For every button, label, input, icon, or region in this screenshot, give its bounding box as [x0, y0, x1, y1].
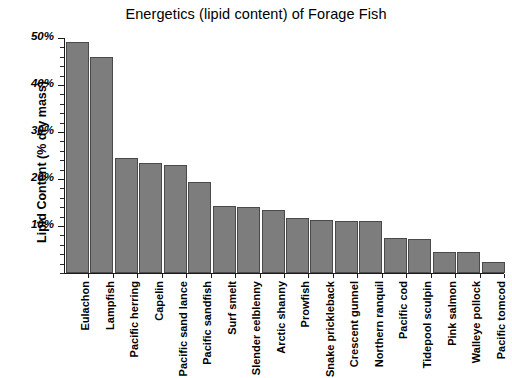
- x-label-slot: Lampfish: [88, 281, 112, 376]
- x-label-slot: Tidepool sculpin: [406, 281, 430, 376]
- x-label-slot: Surf smelt: [211, 281, 235, 376]
- x-tick-mark: [504, 274, 505, 278]
- x-label-slot: Pacific tomcod: [480, 281, 504, 376]
- x-label-slot: Pacific sand lance: [162, 281, 186, 376]
- bar: [164, 165, 187, 273]
- x-label-slot: Pacific sandfish: [186, 281, 210, 376]
- bar: [90, 57, 113, 273]
- chart-title: Energetics (lipid content) of Forage Fis…: [0, 6, 512, 22]
- x-tick-mark: [455, 274, 456, 278]
- x-tick-label: Pacific tomcod: [496, 281, 507, 359]
- x-tick-mark: [308, 274, 309, 278]
- bar: [408, 239, 431, 273]
- x-tick-mark: [284, 274, 285, 278]
- bar: [457, 252, 480, 273]
- x-label-slot: Snake prickleback: [308, 281, 332, 376]
- y-tick-label: 20%: [10, 171, 54, 183]
- x-label-slot: Arctic shanny: [260, 281, 284, 376]
- x-label-slot: Pink salmon: [431, 281, 455, 376]
- y-tick-label: 40%: [10, 77, 54, 89]
- bar: [66, 42, 89, 273]
- bar-series: [64, 38, 504, 273]
- x-label-slot: Walleye pollock: [455, 281, 479, 376]
- bar: [262, 210, 285, 273]
- x-axis-labels: EulachonLampfishPacific herringCapelinPa…: [64, 281, 504, 376]
- bar: [310, 220, 333, 273]
- x-tick-mark: [382, 274, 383, 278]
- bar: [237, 207, 260, 273]
- x-tick-mark: [162, 274, 163, 278]
- y-tick-label: 50%: [10, 30, 54, 42]
- x-tick-mark: [113, 274, 114, 278]
- y-tick-label: 30%: [10, 124, 54, 136]
- x-tick-mark: [260, 274, 261, 278]
- x-tick-mark: [137, 274, 138, 278]
- x-label-slot: Prowfish: [284, 281, 308, 376]
- bar: [359, 221, 382, 273]
- x-tick-mark: [480, 274, 481, 278]
- x-label-slot: Northern ranquil: [357, 281, 381, 376]
- bar: [286, 218, 309, 273]
- x-tick-mark: [333, 274, 334, 278]
- bar: [433, 252, 456, 273]
- bar: [213, 206, 236, 273]
- x-tick-mark: [88, 274, 89, 278]
- x-label-slot: Eulachon: [64, 281, 88, 376]
- bar-chart-figure: Energetics (lipid content) of Forage Fis…: [0, 0, 512, 378]
- x-tick-mark: [431, 274, 432, 278]
- x-label-slot: Capelin: [137, 281, 161, 376]
- x-axis-line: [64, 273, 504, 274]
- x-tick-mark: [235, 274, 236, 278]
- x-tick-mark: [406, 274, 407, 278]
- y-tick-label: 10%: [10, 218, 54, 230]
- bar: [482, 262, 505, 273]
- x-tick-mark: [357, 274, 358, 278]
- x-tick-mark: [211, 274, 212, 278]
- x-label-slot: Crescent gunnel: [333, 281, 357, 376]
- x-tick-mark: [186, 274, 187, 278]
- bar: [188, 182, 211, 273]
- bar: [115, 158, 138, 273]
- x-label-slot: Slender eelblenny: [235, 281, 259, 376]
- bar: [335, 221, 358, 273]
- x-label-slot: Pacific cod: [382, 281, 406, 376]
- bar: [139, 163, 162, 273]
- x-label-slot: Pacific herring: [113, 281, 137, 376]
- bar: [384, 238, 407, 273]
